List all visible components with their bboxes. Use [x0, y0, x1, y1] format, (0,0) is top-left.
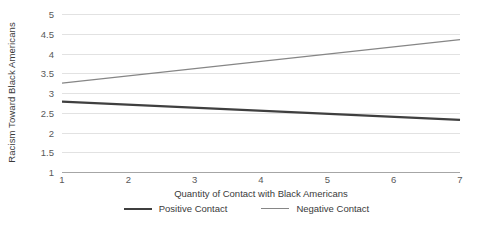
series-line — [62, 40, 460, 83]
x-axis-baseline — [62, 172, 460, 173]
legend-item[interactable]: Positive Contact — [124, 203, 228, 214]
x-axis-tick-label: 4 — [258, 174, 263, 185]
x-axis-tick-label: 5 — [325, 174, 330, 185]
x-axis-tick-label: 6 — [391, 174, 396, 185]
y-axis-tick-label: 5 — [49, 9, 54, 20]
y-axis-tick-label: 2 — [49, 127, 54, 138]
y-axis-tick-label: 2.5 — [41, 107, 54, 118]
chart-legend: Positive ContactNegative Contact — [0, 203, 493, 214]
y-axis-tick-label: 3.5 — [41, 68, 54, 79]
x-axis-title: Quantity of Contact with Black Americans — [62, 188, 460, 199]
series-line — [62, 102, 460, 120]
x-axis-title-label: Quantity of Contact with Black Americans — [174, 188, 348, 199]
legend-item-label: Positive Contact — [159, 203, 228, 214]
y-axis-tick-labels: 54.543.532.521.51 — [0, 14, 58, 172]
x-axis-tick-label: 1 — [59, 174, 64, 185]
legend-line-swatch — [124, 208, 152, 210]
plot-area — [62, 14, 460, 172]
y-axis-tick-label: 1.5 — [41, 147, 54, 158]
y-axis-tick-label: 4 — [49, 48, 54, 59]
x-axis-tick-label: 2 — [126, 174, 131, 185]
legend-item-label: Negative Contact — [296, 203, 369, 214]
line-chart: Racism Toward Black Americans 54.543.532… — [0, 0, 493, 235]
series-layer — [62, 14, 460, 172]
y-axis-tick-label: 4.5 — [41, 28, 54, 39]
legend-line-swatch — [261, 208, 289, 209]
y-axis-tick-label: 3 — [49, 88, 54, 99]
legend-item[interactable]: Negative Contact — [261, 203, 369, 214]
x-axis-tick-label: 3 — [192, 174, 197, 185]
x-axis-tick-label: 7 — [457, 174, 462, 185]
y-axis-tick-label: 1 — [49, 167, 54, 178]
